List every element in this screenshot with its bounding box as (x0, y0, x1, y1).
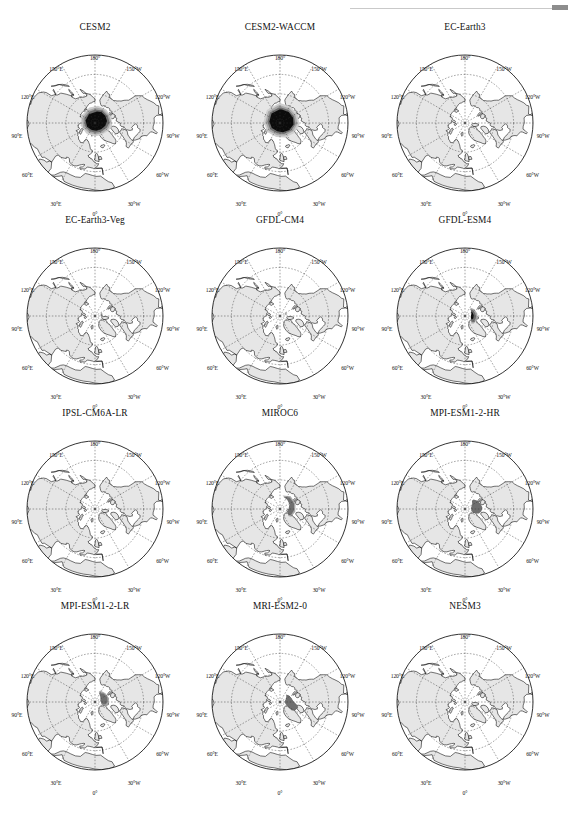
map-panel-cesm2-waccm: CESM2-WACCM180°150°W120°W90°W60°W30°W0°3… (185, 22, 375, 218)
lon-label-8: 60°E (22, 558, 33, 564)
lon-label-9: 90°E (197, 133, 208, 139)
lon-label-8: 60°E (207, 558, 218, 564)
coastline-ellesmere (472, 702, 479, 705)
panel-title-ec-earth3-veg: EC-Earth3-Veg (0, 215, 190, 225)
lon-label-9: 90°E (197, 519, 208, 525)
coastline-sval2 (454, 123, 456, 125)
map-panel-miroc6: MIROC6180°150°W120°W90°W60°W30°W0°30°E60… (185, 408, 375, 604)
map-canvas-miroc6: 180°150°W120°W90°W60°W30°W0°30°E60°E90°E… (185, 421, 375, 603)
lon-label-1: 150°W (496, 452, 511, 458)
panel-title-mpi-esm1-2-lr: MPI-ESM1-2-LR (0, 601, 190, 611)
lon-label-5: 30°W (128, 201, 141, 207)
lon-label-7: 30°E (51, 201, 62, 207)
lon-label-1: 150°W (496, 66, 511, 72)
coastline-sval2 (454, 316, 456, 318)
lon-label-7: 30°E (236, 587, 247, 593)
coastline-svalbard (461, 132, 463, 136)
lon-label-7: 30°E (236, 780, 247, 786)
coastline-svalbard (276, 711, 278, 715)
coastline-sval2 (84, 702, 86, 704)
lon-label-9: 90°E (12, 712, 23, 718)
lon-label-5: 30°W (313, 587, 326, 593)
lon-label-8: 60°E (392, 172, 403, 178)
lon-label-9: 90°E (197, 712, 208, 718)
map-panel-mri-esm2-0: MRI-ESM2-0180°150°W120°W90°W60°W30°W0°30… (185, 601, 375, 797)
lon-label-2: 120°W (525, 287, 540, 293)
lon-label-3: 90°W (167, 712, 180, 718)
map-canvas-mpi-esm1-2-lr: 180°150°W120°W90°W60°W30°W0°30°E60°E90°E… (0, 614, 190, 796)
lon-label-2: 120°W (155, 94, 170, 100)
lon-label-1: 150°W (126, 66, 141, 72)
lon-label-5: 30°W (498, 201, 511, 207)
lon-label-0: 180° (460, 634, 470, 640)
lon-label-1: 150°W (311, 645, 326, 651)
lon-label-3: 90°W (352, 712, 365, 718)
map-panel-ec-earth3: EC-Earth3180°150°W120°W90°W60°W30°W0°30°… (370, 22, 560, 218)
lon-label-11: 150°E (49, 66, 63, 72)
coastline-svalbard (461, 518, 463, 522)
lon-label-8: 60°E (22, 172, 33, 178)
lon-label-10: 120°E (206, 673, 220, 679)
coastline-svalbard (91, 325, 93, 329)
lon-label-4: 60°W (526, 751, 539, 757)
coastline-svalbard (91, 518, 93, 522)
panel-title-cesm2-waccm: CESM2-WACCM (185, 22, 375, 32)
lon-label-9: 90°E (382, 519, 393, 525)
panel-title-mri-esm2-0: MRI-ESM2-0 (185, 601, 375, 611)
lon-label-7: 30°E (421, 587, 432, 593)
lon-label-9: 90°E (12, 133, 23, 139)
lon-label-6: 0° (278, 790, 283, 796)
lon-label-10: 120°E (206, 480, 220, 486)
lon-label-10: 120°E (21, 673, 35, 679)
polar-map-ec-earth3-veg (0, 228, 190, 410)
lon-label-4: 60°W (526, 365, 539, 371)
lon-label-5: 30°W (498, 394, 511, 400)
lon-label-10: 120°E (206, 287, 220, 293)
lon-label-9: 90°E (197, 326, 208, 332)
lon-label-10: 120°E (21, 480, 35, 486)
lon-label-11: 150°E (419, 259, 433, 265)
map-canvas-gfdl-esm4: 180°150°W120°W90°W60°W30°W0°30°E60°E90°E… (370, 228, 560, 410)
coastline-sval2 (84, 316, 86, 318)
map-panel-gfdl-esm4: GFDL-ESM4180°150°W120°W90°W60°W30°W0°30°… (370, 215, 560, 411)
lon-label-10: 120°E (391, 673, 405, 679)
lon-label-7: 30°E (421, 780, 432, 786)
coastline-sval2 (454, 509, 456, 511)
lon-label-3: 90°W (352, 519, 365, 525)
polar-map-gfdl-cm4 (185, 228, 375, 410)
lon-label-5: 30°W (313, 201, 326, 207)
panel-title-mpi-esm1-2-hr: MPI-ESM1-2-HR (370, 408, 560, 418)
lon-label-0: 180° (460, 248, 470, 254)
lon-label-9: 90°E (382, 712, 393, 718)
lon-label-0: 180° (275, 441, 285, 447)
lon-label-2: 120°W (340, 287, 355, 293)
lon-label-4: 60°W (156, 365, 169, 371)
lon-label-2: 120°W (525, 480, 540, 486)
lon-label-5: 30°W (128, 780, 141, 786)
coastline-ellesmere (287, 316, 294, 319)
lon-label-3: 90°W (167, 519, 180, 525)
lon-label-11: 150°E (49, 452, 63, 458)
coastline-sval2 (84, 509, 86, 511)
lon-label-2: 120°W (340, 673, 355, 679)
lon-label-1: 150°W (126, 452, 141, 458)
lon-label-3: 90°W (537, 712, 550, 718)
lon-label-2: 120°W (525, 94, 540, 100)
map-canvas-nesm3: 180°150°W120°W90°W60°W30°W0°30°E60°E90°E… (370, 614, 560, 796)
polar-map-cesm2 (0, 35, 190, 217)
coastline-ellesmere (472, 123, 479, 126)
lon-label-7: 30°E (421, 394, 432, 400)
lon-label-1: 150°W (311, 259, 326, 265)
polar-map-gfdl-esm4 (370, 228, 560, 410)
lon-label-3: 90°W (167, 133, 180, 139)
lon-label-3: 90°W (167, 326, 180, 332)
lon-label-1: 150°W (496, 645, 511, 651)
lon-label-10: 120°E (206, 94, 220, 100)
panel-title-cesm2: CESM2 (0, 22, 190, 32)
coastline-sval2 (269, 509, 271, 511)
map-canvas-ipsl-cm6a-lr: 180°150°W120°W90°W60°W30°W0°30°E60°E90°E… (0, 421, 190, 603)
lon-label-6: 0° (463, 790, 468, 796)
lon-label-4: 60°W (341, 365, 354, 371)
map-canvas-ec-earth3: 180°150°W120°W90°W60°W30°W0°30°E60°E90°E… (370, 35, 560, 217)
lon-label-0: 180° (90, 248, 100, 254)
